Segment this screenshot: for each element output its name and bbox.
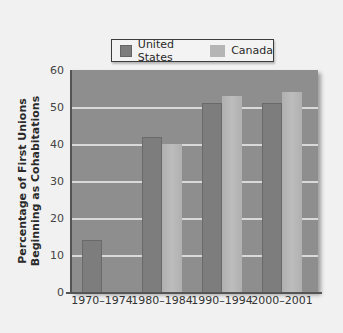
y-tick-label: 60: [44, 64, 64, 77]
y-tick-label: 30: [44, 175, 64, 188]
bar-canada: [162, 144, 182, 292]
y-tick-label: 10: [44, 249, 64, 262]
chart-legend: United States Canada: [111, 39, 274, 62]
legend-label: Canada: [231, 44, 273, 57]
legend-swatch-united-states: [120, 45, 132, 57]
bar-united-states: [142, 137, 162, 292]
y-axis-label-line-1: Percentage of First Unions: [16, 96, 29, 266]
legend-item-canada: Canada: [210, 44, 273, 57]
plot-area: [71, 70, 318, 292]
y-tick-label: 0: [44, 286, 64, 299]
bar-united-states: [202, 103, 222, 292]
y-tick-label: 20: [44, 212, 64, 225]
y-tick-label: 40: [44, 138, 64, 151]
legend-label: United States: [138, 38, 194, 64]
legend-swatch-canada: [210, 45, 225, 57]
y-axis-label: Percentage of First Unions Beginning as …: [16, 96, 42, 266]
bar-canada: [282, 92, 302, 292]
bar-canada: [222, 96, 242, 292]
bar-united-states: [82, 240, 102, 292]
x-tick-label: 2000–2001: [247, 294, 317, 307]
y-axis-line: [70, 70, 72, 292]
bar-united-states: [262, 103, 282, 292]
legend-item-united-states: United States: [120, 38, 194, 64]
y-tick-label: 50: [44, 101, 64, 114]
y-axis-label-line-2: Beginning as Cohabitations: [29, 96, 42, 266]
